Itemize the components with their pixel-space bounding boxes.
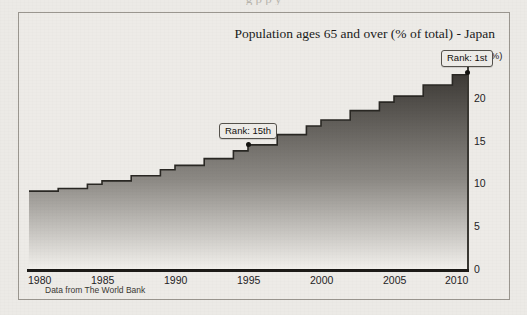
data-point-marker-rank-15th	[246, 142, 251, 147]
area-chart-svg	[29, 55, 467, 269]
y-tick-5: 5	[474, 220, 480, 232]
x-tick-1990: 1990	[164, 274, 187, 286]
chart-title: Population ages 65 and over (% of total)…	[19, 26, 495, 42]
annotation-rank-1st[interactable]: Rank: 1st	[441, 50, 493, 67]
y-tick-0: 0	[474, 263, 480, 275]
x-axis-line	[27, 269, 469, 272]
x-tick-2010: 2010	[445, 274, 468, 286]
annotation-rank-15th[interactable]: Rank: 15th	[219, 123, 277, 140]
x-tick-2000: 2000	[310, 274, 333, 286]
area-fill	[29, 72, 467, 269]
x-tick-2005: 2005	[383, 274, 406, 286]
data-point-marker-rank-1st	[465, 70, 470, 75]
chart-figure: Population ages 65 and over (% of total)…	[18, 12, 510, 300]
y-axis-line	[467, 55, 469, 270]
y-tick-20: 20	[474, 92, 486, 104]
source-note: Data from The World Bank	[45, 285, 145, 295]
plot-area	[29, 55, 467, 269]
y-tick-10: 10	[474, 177, 486, 189]
y-tick-15: 15	[474, 135, 486, 147]
x-tick-1995: 1995	[237, 274, 260, 286]
top-bleed-text: g p p y	[0, 0, 527, 5]
